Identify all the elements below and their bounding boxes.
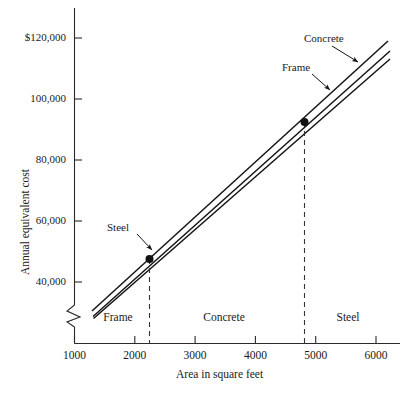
ytick-label-60000: 60,000 [8, 215, 66, 226]
region-label-steel: Steel [318, 312, 378, 324]
annotation-label-frame: Frame [282, 62, 310, 73]
series-line-steel [92, 41, 388, 311]
xtick-label-5000: 5000 [286, 350, 346, 362]
ytick-label-80000: 80,000 [8, 154, 66, 165]
xtick-label-6000: 6000 [346, 350, 406, 362]
xtick-label-1000: 1000 [45, 350, 105, 362]
y-axis-break-zigzag [67, 305, 80, 327]
y-axis-title: Annual equivalent cost [20, 169, 32, 275]
ytick-label-40000: 40,000 [8, 276, 66, 287]
xtick-label-4000: 4000 [225, 350, 285, 362]
annotation-leader-steel [137, 234, 152, 250]
ytick-label-100000: 100,000 [8, 93, 66, 104]
x-axis-ticks [75, 336, 377, 344]
breakeven-point-2 [301, 118, 309, 126]
breakeven-point-1 [146, 255, 154, 263]
chart-canvas [0, 0, 411, 395]
xtick-label-3000: 3000 [165, 350, 225, 362]
series-line-frame [94, 59, 391, 319]
annotation-label-steel: Steel [107, 222, 129, 233]
xtick-label-2000: 2000 [105, 350, 165, 362]
series-line-concrete [93, 51, 390, 317]
annotation-leader-frame [312, 74, 330, 90]
annotation-label-concrete: Concrete [304, 33, 344, 44]
chart-figure: $120,000 100,000 80,000 60,000 40,000 10… [0, 0, 411, 395]
y-axis-ticks [75, 38, 83, 282]
annotation-leader-concrete [332, 46, 358, 62]
region-label-frame: Frame [88, 312, 148, 324]
x-axis-title: Area in square feet [176, 369, 263, 381]
ytick-label-120000: $120,000 [8, 32, 66, 43]
region-label-concrete: Concrete [194, 312, 254, 324]
